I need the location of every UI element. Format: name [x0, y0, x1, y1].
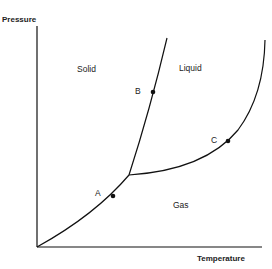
region-solid-label: Solid — [77, 64, 96, 74]
point-b-label: B — [135, 86, 141, 96]
region-liquid-label: Liquid — [179, 63, 202, 73]
point-a-dot — [111, 194, 116, 199]
point-c-label: C — [211, 135, 217, 145]
point-b-dot — [151, 90, 156, 95]
x-axis-label: Temperature — [197, 254, 245, 263]
point-c-dot — [226, 139, 231, 144]
phase-diagram: Pressure Temperature Solid Liquid Gas A … — [0, 0, 272, 269]
region-gas-label: Gas — [173, 200, 189, 210]
sublimation-curve — [37, 175, 129, 247]
point-a-label: A — [95, 188, 101, 198]
fusion-curve — [129, 38, 167, 175]
y-axis-label: Pressure — [2, 15, 37, 24]
